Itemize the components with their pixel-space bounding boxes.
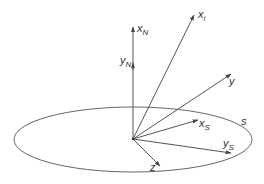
label-xi: xi bbox=[197, 8, 206, 23]
label-xS: xS bbox=[198, 117, 211, 132]
label-yS: yS bbox=[222, 137, 235, 152]
coordinate-diagram: xN yN xi y xS s yS z bbox=[0, 0, 264, 184]
label-yN: yN bbox=[119, 54, 132, 69]
vector-y bbox=[133, 74, 231, 139]
vector-xS bbox=[133, 120, 198, 139]
origin-point bbox=[132, 138, 135, 141]
vector-yS bbox=[133, 139, 231, 153]
label-s: s bbox=[241, 115, 247, 127]
label-z: z bbox=[149, 161, 156, 173]
label-xN: xN bbox=[136, 22, 149, 37]
label-y: y bbox=[228, 75, 236, 87]
vector-z bbox=[133, 139, 160, 166]
